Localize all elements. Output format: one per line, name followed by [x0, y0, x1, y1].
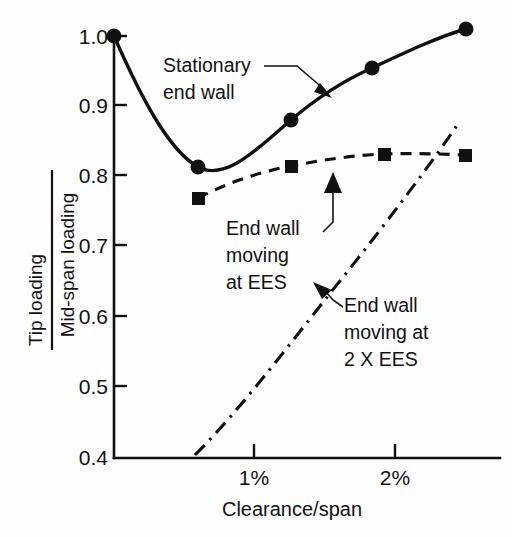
annotation-stationary-line-2: end wall	[163, 81, 235, 103]
x-tick-label-2pct: 2%	[380, 466, 410, 489]
annotation-2xees-leader-line	[326, 292, 343, 307]
annotation-ees-line-3: at EES	[226, 271, 287, 293]
annotation-2xees-line-2: moving at	[344, 321, 429, 343]
x-axis-title: Clearance/span	[222, 498, 362, 520]
data-point-marker	[365, 61, 380, 76]
data-point-marker	[107, 29, 122, 44]
x-axis-ticks	[254, 444, 395, 458]
annotation-stationary-line-1: Stationary	[163, 54, 251, 76]
annotation-stationary-leader-line	[264, 66, 325, 90]
annotation-ees-arrowhead	[324, 172, 342, 193]
y-tick-label-0-6: 0.6	[79, 305, 108, 328]
x-tick-label-1pct: 1%	[239, 466, 269, 489]
y-tick-label-1-0: 1.0	[79, 25, 108, 48]
data-point-marker	[192, 192, 205, 205]
annotation-2xees-line-3: 2 X EES	[344, 348, 418, 370]
y-axis-title-fraction: Tip loading Mid-span loading	[25, 170, 78, 350]
annotation-2xees-line-1: End wall	[344, 294, 418, 316]
y-tick-label-0-8: 0.8	[79, 164, 108, 187]
y-tick-label-0-4: 0.4	[79, 446, 109, 469]
y-tick-label-0-9: 0.9	[79, 94, 108, 117]
x-axis-tick-labels: 1% 2%	[239, 466, 410, 489]
y-tick-label-0-7: 0.7	[79, 234, 108, 257]
y-axis-title-numerator: Tip loading	[25, 254, 46, 346]
data-point-marker	[191, 160, 206, 175]
chart-canvas: 1.0 0.9 0.8 0.7 0.6 0.5 0.4 1% 2% Cleara…	[0, 0, 512, 537]
annotation-ees-line-1: End wall	[226, 217, 300, 239]
data-point-marker	[378, 148, 391, 161]
annotation-end-wall-ees: End wall moving at EES	[226, 172, 342, 293]
y-axis-tick-labels: 1.0 0.9 0.8 0.7 0.6 0.5 0.4	[79, 25, 109, 469]
annotation-ees-line-2: moving	[226, 244, 289, 266]
annotation-end-wall-2x-ees: End wall moving at 2 X EES	[313, 282, 429, 370]
y-tick-label-0-5: 0.5	[79, 375, 108, 398]
series-stationary-end-wall	[107, 22, 474, 175]
data-point-marker	[285, 160, 298, 173]
annotation-stationary-end-wall: Stationary end wall	[163, 54, 332, 103]
annotation-ees-leader-line	[323, 192, 333, 232]
y-axis-ticks	[114, 36, 127, 386]
data-point-marker	[459, 149, 472, 162]
chart-figure: 1.0 0.9 0.8 0.7 0.6 0.5 0.4 1% 2% Cleara…	[0, 0, 512, 537]
data-point-marker	[459, 22, 474, 37]
y-axis-title-denominator: Mid-span loading	[57, 193, 78, 338]
data-point-marker	[284, 113, 299, 128]
